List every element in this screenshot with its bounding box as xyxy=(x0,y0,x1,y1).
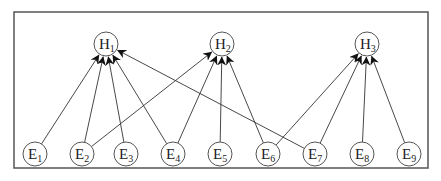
node-e1: E1 xyxy=(23,142,47,166)
node-e5: E5 xyxy=(208,142,232,166)
edge-e6-to-h2 xyxy=(227,56,263,143)
edge-e9-to-h3 xyxy=(372,56,405,143)
node-h3: H3 xyxy=(355,32,379,56)
edge-e7-to-h1 xyxy=(118,50,305,148)
edge-e8-to-h3 xyxy=(363,57,367,142)
edge-e4-to-h1 xyxy=(113,55,167,144)
bipartite-graph-diagram: H1H2H3E1E2E3E4E5E6E7E8E9 xyxy=(0,0,441,181)
node-e9: E9 xyxy=(397,142,421,166)
node-e4: E4 xyxy=(161,142,185,166)
edge-e7-to-h3 xyxy=(320,56,361,143)
edge-e5-to-h2 xyxy=(220,57,222,142)
node-h2: H2 xyxy=(210,32,234,56)
node-e8: E8 xyxy=(350,142,374,166)
edges-layer xyxy=(42,50,405,148)
edge-e2-to-h2 xyxy=(91,52,211,147)
node-e7: E7 xyxy=(303,142,327,166)
node-e3: E3 xyxy=(114,142,138,166)
node-e6: E6 xyxy=(256,142,280,166)
nodes-layer: H1H2H3E1E2E3E4E5E6E7E8E9 xyxy=(23,32,421,166)
node-h1: H1 xyxy=(94,32,118,56)
edge-e1-to-h1 xyxy=(42,55,100,144)
edge-e6-to-h3 xyxy=(276,54,358,145)
edge-e2-to-h1 xyxy=(85,57,104,143)
node-e2: E2 xyxy=(70,142,94,166)
